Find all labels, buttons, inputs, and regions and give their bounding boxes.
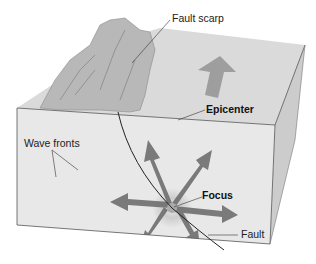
- label-wave-fronts: Wave fronts: [24, 138, 80, 149]
- label-fault-scarp: Fault scarp: [172, 13, 224, 24]
- mountain-relief: [40, 18, 155, 112]
- label-epicenter: Epicenter: [206, 104, 254, 115]
- label-fault: Fault: [241, 229, 264, 240]
- earthquake-diagram: [0, 0, 316, 264]
- label-focus: Focus: [202, 190, 233, 201]
